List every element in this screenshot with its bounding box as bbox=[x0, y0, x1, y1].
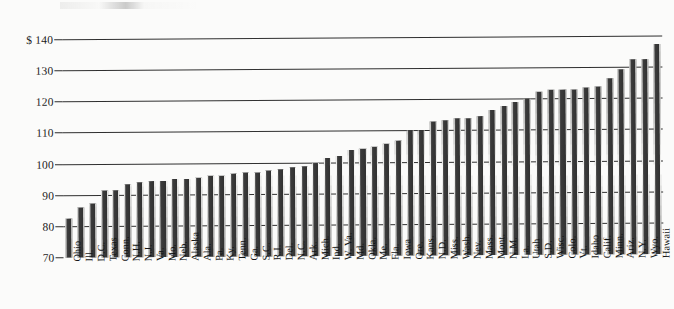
x-tick-label: Ala. bbox=[202, 197, 213, 261]
x-tick-label: Iowa bbox=[402, 196, 413, 260]
y-tick-dash-120 bbox=[55, 101, 63, 102]
x-tick-label: Alaska bbox=[190, 197, 201, 261]
x-tick-label: Me. bbox=[379, 196, 390, 260]
y-tick-dash-100 bbox=[55, 164, 63, 165]
x-tick-label: Neb. bbox=[179, 197, 190, 261]
x-tick-label: Del. bbox=[284, 196, 295, 260]
x-tick-label: Utah bbox=[531, 195, 542, 259]
y-axis: $ 140130120110100908070 bbox=[0, 2, 65, 309]
y-tick-dash-130 bbox=[54, 70, 62, 71]
x-tick-label: Ore. bbox=[414, 195, 425, 259]
y-tick-label-80: 80 bbox=[42, 221, 54, 233]
x-tick-label: Idaho bbox=[590, 194, 601, 258]
x-tick-label: N.H. bbox=[131, 197, 142, 261]
y-tick-dash-110 bbox=[55, 133, 63, 134]
y-tick-label-130: 130 bbox=[35, 65, 53, 77]
x-axis: OhioIll.D.C.TexasConn.N.H.N.J.Va.Mo.Neb.… bbox=[62, 0, 664, 309]
plot-area: $ 140130120110100908070 OhioIll.D.C.Texa… bbox=[0, 0, 674, 309]
x-tick-label: Mass. bbox=[484, 195, 495, 259]
y-tick-dash-80 bbox=[55, 226, 63, 227]
y-tick-dash-140 bbox=[54, 39, 62, 40]
x-tick-label: Vt. bbox=[579, 194, 590, 258]
y-tick-label-90: 90 bbox=[42, 189, 54, 201]
x-tick-label: W. Va. bbox=[343, 196, 354, 260]
x-tick-label: Nev. bbox=[473, 195, 484, 259]
x-tick-label: La. bbox=[520, 195, 531, 259]
x-tick-label: Calif. bbox=[602, 194, 613, 258]
y-tick-label-140: $ 140 bbox=[26, 34, 53, 46]
x-tick-label: Conn. bbox=[120, 197, 131, 261]
x-tick-label: S.D. bbox=[543, 195, 554, 259]
x-tick-label: Mich. bbox=[320, 196, 331, 260]
x-tick-label: N.M. bbox=[508, 195, 519, 259]
y-tick-label-70: 70 bbox=[43, 252, 55, 264]
x-tick-label: Texas bbox=[108, 197, 119, 261]
x-tick-label: Colo. bbox=[567, 195, 578, 259]
x-tick-label: Mont. bbox=[496, 195, 507, 259]
x-tick-label: Minn. bbox=[614, 194, 625, 258]
x-tick-label: N.C. bbox=[296, 196, 307, 260]
x-tick-label: Wash. bbox=[461, 195, 472, 259]
x-tick-label: Ark. bbox=[308, 196, 319, 260]
x-tick-label: Ga. bbox=[249, 196, 260, 260]
x-tick-label: Wisc. bbox=[555, 195, 566, 259]
x-tick-label: Ky. bbox=[226, 197, 237, 261]
y-tick-label-100: 100 bbox=[36, 158, 54, 170]
x-tick-label: Pa. bbox=[214, 197, 225, 261]
y-tick-dash-70 bbox=[56, 257, 64, 258]
x-tick-label: Md. bbox=[355, 196, 366, 260]
x-tick-label: Miss. bbox=[449, 195, 460, 259]
x-tick-label: Ill. bbox=[84, 197, 95, 261]
x-tick-label: N.Y. bbox=[637, 194, 648, 258]
x-tick-label: Tenn. bbox=[237, 197, 248, 261]
x-tick-label: Fla. bbox=[390, 196, 401, 260]
x-tick-label: Kans. bbox=[426, 195, 437, 259]
x-tick-label: Ohio bbox=[73, 198, 84, 262]
x-tick-label: Mo. bbox=[167, 197, 178, 261]
x-tick-label: N.D. bbox=[437, 195, 448, 259]
y-tick-dash-90 bbox=[55, 195, 63, 196]
x-tick-label: Ind. bbox=[331, 196, 342, 260]
x-tick-label: R.I. bbox=[273, 196, 284, 260]
y-tick-label-110: 110 bbox=[36, 127, 54, 139]
x-tick-label: Ariz. bbox=[626, 194, 637, 258]
x-tick-label: Hawaii bbox=[661, 194, 672, 258]
bar-chart-figure: $ 140130120110100908070 OhioIll.D.C.Texa… bbox=[0, 0, 674, 309]
y-tick-label-120: 120 bbox=[36, 96, 54, 108]
x-tick-label: Wyo. bbox=[649, 194, 660, 258]
x-tick-label: Okla. bbox=[367, 196, 378, 260]
x-tick-label: S.C. bbox=[261, 196, 272, 260]
x-tick-label: N.J. bbox=[143, 197, 154, 261]
x-tick-label: Va. bbox=[155, 197, 166, 261]
x-tick-label: D.C. bbox=[96, 197, 107, 261]
